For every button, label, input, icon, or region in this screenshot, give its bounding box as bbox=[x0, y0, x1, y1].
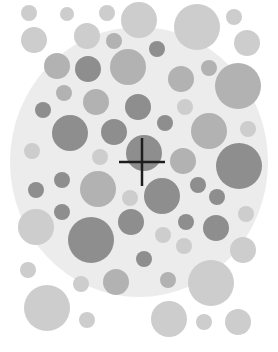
plate-dot bbox=[18, 209, 54, 245]
plate-dot bbox=[149, 41, 165, 57]
plate-dot bbox=[20, 262, 36, 278]
plate-dot bbox=[126, 135, 162, 171]
plate-dot bbox=[122, 190, 138, 206]
plate-dot bbox=[226, 9, 242, 25]
plate-dot bbox=[110, 49, 146, 85]
plate-dot bbox=[74, 23, 100, 49]
plate-dot bbox=[216, 143, 262, 189]
plate-dot bbox=[79, 312, 95, 328]
dot-plate-canvas[interactable] bbox=[0, 0, 278, 352]
plate-dot bbox=[21, 5, 37, 21]
plate-dot bbox=[73, 276, 89, 292]
plate-dot bbox=[80, 171, 116, 207]
plate-dot bbox=[160, 272, 176, 288]
plate-dot bbox=[106, 33, 122, 49]
plate-dot bbox=[176, 238, 192, 254]
plate-dot bbox=[174, 4, 220, 50]
plate-dot bbox=[157, 115, 173, 131]
plate-dot bbox=[209, 189, 225, 205]
plate-dot bbox=[234, 30, 260, 56]
plate-dot bbox=[170, 148, 196, 174]
plate-dot bbox=[178, 214, 194, 230]
plate-dot bbox=[24, 285, 70, 331]
plate-dot bbox=[240, 121, 256, 137]
color-plate[interactable] bbox=[0, 0, 278, 352]
plate-dot bbox=[83, 89, 109, 115]
plate-dot bbox=[44, 53, 70, 79]
plate-dot bbox=[101, 119, 127, 145]
plate-dot bbox=[215, 63, 261, 109]
plate-dot bbox=[230, 237, 256, 263]
plate-dot bbox=[125, 94, 151, 120]
plate-dot bbox=[52, 115, 88, 151]
plate-dot bbox=[151, 301, 187, 337]
plate-dot bbox=[24, 143, 40, 159]
plate-dot bbox=[54, 204, 70, 220]
plate-dot bbox=[121, 2, 157, 38]
plate-dot bbox=[238, 206, 254, 222]
plate-dot bbox=[118, 209, 144, 235]
plate-dot bbox=[136, 251, 152, 267]
plate-dot bbox=[203, 215, 229, 241]
plate-dot bbox=[99, 5, 115, 21]
plate-dot bbox=[191, 113, 227, 149]
plate-dot bbox=[155, 227, 171, 243]
plate-dot bbox=[56, 85, 72, 101]
plate-dot bbox=[188, 260, 234, 306]
plate-dot bbox=[21, 27, 47, 53]
plate-dot bbox=[60, 7, 74, 21]
plate-dot bbox=[92, 149, 108, 165]
plate-dot bbox=[144, 178, 180, 214]
plate-dot bbox=[54, 172, 70, 188]
plate-dot bbox=[75, 56, 101, 82]
plate-dot bbox=[28, 182, 44, 198]
plate-dot bbox=[168, 66, 194, 92]
plate-dot bbox=[196, 314, 212, 330]
plate-dot bbox=[177, 99, 193, 115]
plate-dot bbox=[103, 269, 129, 295]
plate-dot bbox=[201, 60, 217, 76]
plate-dot bbox=[35, 102, 51, 118]
plate-dot bbox=[190, 177, 206, 193]
plate-dot bbox=[68, 217, 114, 263]
plate-dot bbox=[225, 309, 251, 335]
